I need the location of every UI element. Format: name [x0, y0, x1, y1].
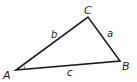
side-label-b: b [51, 29, 57, 40]
vertex-label-c: C [84, 4, 92, 17]
vertex-label-a: A [2, 69, 11, 82]
triangle-abc [16, 17, 120, 70]
triangle-diagram: A B C a b c [0, 0, 137, 82]
side-label-c: c [67, 67, 73, 78]
vertex-label-b: B [122, 60, 130, 73]
side-label-a: a [107, 28, 113, 39]
